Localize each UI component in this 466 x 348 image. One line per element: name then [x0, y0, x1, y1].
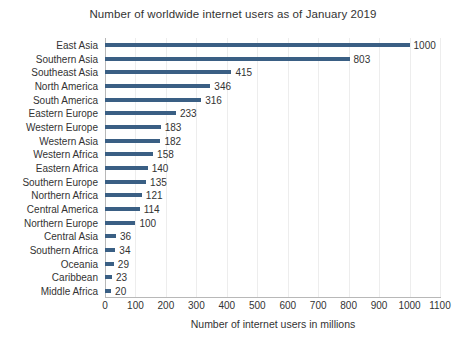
x-tick-label: 700 — [310, 300, 327, 311]
bar-value-label: 346 — [214, 80, 231, 91]
bar-value-label: 140 — [152, 162, 169, 173]
bar-row[interactable]: Western Asia182 — [0, 134, 466, 148]
bar[interactable] — [105, 289, 111, 293]
bar[interactable] — [105, 248, 115, 252]
bar-value-label: 135 — [150, 176, 167, 187]
bar-row[interactable]: Northern Africa121 — [0, 189, 466, 203]
category-label: East Asia — [0, 39, 98, 50]
bar[interactable] — [105, 125, 161, 129]
bar[interactable] — [105, 234, 116, 238]
x-tick-label: 0 — [102, 300, 108, 311]
bar-value-label: 100 — [139, 217, 156, 228]
bar-value-label: 233 — [180, 108, 197, 119]
bar[interactable] — [105, 221, 135, 225]
category-label: Southern Africa — [0, 245, 98, 256]
bar[interactable] — [105, 262, 114, 266]
bar-row[interactable]: Southeast Asia415 — [0, 65, 466, 79]
bar-row[interactable]: South America316 — [0, 93, 466, 107]
x-tick-label: 600 — [279, 300, 296, 311]
bar-value-label: 34 — [119, 245, 130, 256]
category-label: Central America — [0, 204, 98, 215]
bar-row[interactable]: Eastern Europe233 — [0, 106, 466, 120]
bar[interactable] — [105, 111, 176, 115]
bar-row[interactable]: Northern Europe100 — [0, 216, 466, 230]
bar-value-label: 20 — [115, 286, 126, 297]
bar[interactable] — [105, 98, 201, 102]
x-tick-label: 900 — [371, 300, 388, 311]
bar-row[interactable]: North America346 — [0, 79, 466, 93]
chart-title: Number of worldwide internet users as of… — [0, 8, 466, 20]
category-label: Southern Asia — [0, 53, 98, 64]
bar[interactable] — [105, 84, 210, 88]
x-axis-title: Number of internet users in millions — [105, 318, 441, 330]
bar-row[interactable]: Middle Africa20 — [0, 284, 466, 298]
category-label: Northern Europe — [0, 217, 98, 228]
bar-value-label: 121 — [146, 190, 163, 201]
category-label: Central Asia — [0, 231, 98, 242]
bar-row[interactable]: Oceania29 — [0, 257, 466, 271]
bar-row[interactable]: Central Asia36 — [0, 230, 466, 244]
x-tick-label: 400 — [218, 300, 235, 311]
x-tick-label: 500 — [249, 300, 266, 311]
bar-value-label: 114 — [144, 204, 160, 215]
category-label: Southeast Asia — [0, 67, 98, 78]
bar-rows: East Asia1000Southern Asia803Southeast A… — [0, 38, 466, 298]
bar[interactable] — [105, 70, 231, 74]
bar-row[interactable]: Western Africa158 — [0, 147, 466, 161]
x-tick-label: 1100 — [429, 300, 451, 311]
bar-value-label: 415 — [235, 67, 252, 78]
chart-container: Number of worldwide internet users as of… — [0, 0, 466, 348]
bar-value-label: 182 — [164, 135, 181, 146]
category-label: Eastern Europe — [0, 108, 98, 119]
x-tick-label: 800 — [340, 300, 357, 311]
bar-row[interactable]: Southern Africa34 — [0, 243, 466, 257]
bar-value-label: 158 — [157, 149, 174, 160]
x-tick-label: 300 — [188, 300, 205, 311]
bar-row[interactable]: Southern Asia803 — [0, 52, 466, 66]
bar[interactable] — [105, 43, 410, 47]
x-axis-ticks: 010020030040050060070080090010001100 — [0, 300, 466, 314]
bar-row[interactable]: Eastern Africa140 — [0, 161, 466, 175]
bar[interactable] — [105, 166, 148, 170]
category-label: Northern Africa — [0, 190, 98, 201]
category-label: Caribbean — [0, 272, 98, 283]
bar-value-label: 183 — [165, 121, 182, 132]
bar-row[interactable]: Western Europe183 — [0, 120, 466, 134]
category-label: Eastern Africa — [0, 162, 98, 173]
category-label: South America — [0, 94, 98, 105]
bar-row[interactable]: Caribbean23 — [0, 271, 466, 285]
category-label: Oceania — [0, 258, 98, 269]
category-label: Western Africa — [0, 149, 98, 160]
bar-value-label: 803 — [354, 53, 371, 64]
bar-row[interactable]: Central America114 — [0, 202, 466, 216]
x-tick-label: 100 — [127, 300, 144, 311]
bar-row[interactable]: East Asia1000 — [0, 38, 466, 52]
category-label: Southern Europe — [0, 176, 98, 187]
bar-value-label: 316 — [205, 94, 222, 105]
bar-value-label: 36 — [120, 231, 131, 242]
bar[interactable] — [105, 207, 140, 211]
bar[interactable] — [105, 193, 142, 197]
category-label: North America — [0, 80, 98, 91]
bar-value-label: 1000 — [414, 39, 436, 50]
bar-value-label: 29 — [118, 258, 129, 269]
bar[interactable] — [105, 275, 112, 279]
x-tick-label: 1000 — [398, 300, 420, 311]
bar[interactable] — [105, 139, 160, 143]
category-label: Middle Africa — [0, 286, 98, 297]
category-label: Western Europe — [0, 121, 98, 132]
category-label: Western Asia — [0, 135, 98, 146]
bar-row[interactable]: Southern Europe135 — [0, 175, 466, 189]
bar-value-label: 23 — [116, 272, 127, 283]
bar[interactable] — [105, 152, 153, 156]
x-tick-label: 200 — [158, 300, 175, 311]
bar[interactable] — [105, 57, 350, 61]
bar[interactable] — [105, 180, 146, 184]
